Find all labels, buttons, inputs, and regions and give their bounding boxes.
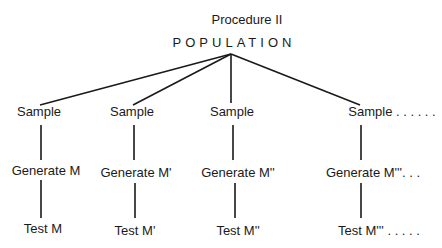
sample-node-1: Sample: [17, 104, 61, 119]
test-node-3: Test M'': [216, 223, 259, 238]
sample-node-4: Sample . . . . . .: [348, 104, 435, 119]
test-node-4: Test M''' . . . . .: [338, 223, 420, 238]
diagram-title: Procedure II: [212, 12, 283, 27]
population-node: POPULATION: [173, 35, 296, 50]
sample-node-2: Sample: [110, 104, 154, 119]
test-node-2: Test M': [115, 223, 156, 238]
generate-node-4: Generate M'''. . .: [326, 165, 420, 180]
generate-node-2: Generate M': [100, 165, 171, 180]
sample-node-3: Sample: [210, 104, 254, 119]
generate-node-3: Generate M'': [201, 165, 275, 180]
generate-node-1: Generate M: [12, 163, 81, 178]
test-node-1: Test M: [24, 221, 62, 236]
